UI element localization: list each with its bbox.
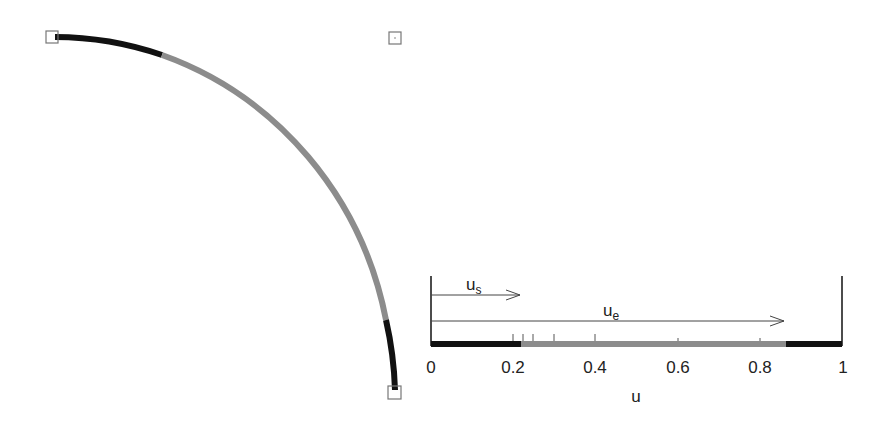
curve-segment-black-start: [55, 37, 162, 55]
knot-ticks: [513, 334, 760, 341]
axis-bar-black-start: [431, 341, 521, 347]
axis-bar-black-end: [786, 341, 842, 347]
tick-label-0.2: 0.2: [501, 358, 525, 377]
tick-label-0.8: 0.8: [748, 358, 772, 377]
tick-label-0.6: 0.6: [666, 358, 690, 377]
curve: [55, 37, 395, 390]
axis-label-u: u: [631, 387, 640, 406]
parametric-arc-figure: 0 0.2 0.4 0.6 0.8 1 u us ue: [0, 0, 891, 421]
curve-segment-gray-middle: [162, 55, 386, 320]
us-arrow: us: [431, 275, 520, 300]
tick-label-0.4: 0.4: [583, 358, 607, 377]
tick-label-1: 1: [838, 358, 847, 377]
control-point-dot: [394, 37, 396, 39]
ue-label: ue: [603, 301, 619, 323]
ue-arrow: ue: [431, 301, 784, 326]
us-label: us: [466, 275, 481, 297]
curve-segment-black-end: [386, 320, 395, 390]
axis-bar-gray-middle: [521, 341, 786, 347]
tick-label-0: 0: [426, 358, 435, 377]
